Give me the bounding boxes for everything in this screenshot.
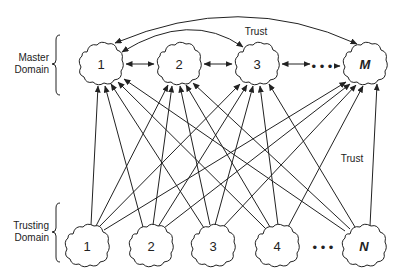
svg-text:1: 1: [97, 57, 104, 72]
master-domain-label-line2: Domain: [15, 64, 49, 75]
trusting-node-1: 1: [65, 224, 109, 267]
trust-edges: [91, 79, 377, 231]
svg-text:2: 2: [175, 57, 182, 72]
svg-text:M: M: [360, 57, 372, 72]
trusting-node-2: 2: [129, 224, 173, 267]
trusting-domain-label-line1: Trusting: [13, 220, 49, 231]
svg-text:4: 4: [273, 239, 280, 254]
svg-text:2: 2: [147, 239, 154, 254]
trusting-domain-label-line2: Domain: [15, 232, 49, 243]
master-node-2: 2: [157, 42, 201, 85]
trusting-node-N: N: [342, 224, 386, 267]
trust-label-top: Trust: [245, 26, 268, 37]
trust-diagram: Master Domain Trusting Domain Trust: [0, 0, 402, 274]
svg-text:1: 1: [83, 239, 90, 254]
master-node-3: 3: [235, 42, 279, 85]
trust-arcs: [115, 17, 357, 52]
master-node-1: 1: [79, 42, 123, 85]
svg-text:3: 3: [253, 57, 260, 72]
trusting-node-3: 3: [191, 224, 235, 267]
trusting-domain-bracket: [52, 203, 60, 262]
svg-text:3: 3: [209, 239, 216, 254]
trust-label-right: Trust: [341, 153, 364, 164]
master-domain-bracket: [52, 35, 60, 95]
svg-text:N: N: [359, 239, 369, 254]
trusting-node-4: 4: [255, 224, 299, 267]
master-ellipsis: • • •: [312, 59, 333, 74]
master-domain-label-line1: Master: [18, 52, 49, 63]
master-node-M: M: [343, 42, 387, 85]
trusting-ellipsis: • • •: [313, 240, 334, 255]
